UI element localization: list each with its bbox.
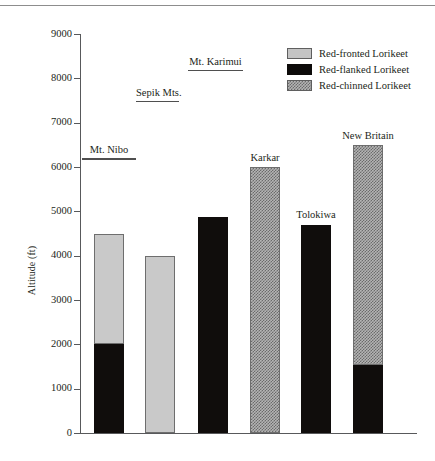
chart-plot-area: Altitude (ft) 9000 8000 7000 6000 5000 4… [0,0,435,461]
bar-karkar[interactable] [250,167,280,433]
y-tick-label-2000: 2000 [36,339,72,350]
legend-swatch-icon-red-flanked [287,64,312,75]
annotation-rule-mt-karimui [188,70,243,72]
bar-segment-red-flanked-lorikeet [353,365,383,433]
bar-label-tolokiwa: Tolokiwa [286,209,346,221]
bar-segment-red-chinned-lorikeet [353,145,383,365]
bar-mt-karimui[interactable] [198,217,228,433]
y-tick-label-6000: 6000 [36,162,72,173]
bar-label-new-britain: New Britain [333,130,403,142]
bar-new-britain[interactable] [353,145,383,433]
x-axis-line [80,433,417,434]
y-axis-title: Altitude (ft) [26,226,37,316]
legend-label-red-flanked: Red-flanked Lorikeet [319,63,409,76]
legend-label-red-chinned: Red-chinned Lorikeet [319,79,411,92]
y-axis-line [80,34,81,433]
y-tick-3000 [74,300,80,301]
bar-segment-red-flanked-lorikeet [198,217,228,433]
y-tick-5000 [74,211,80,212]
annotation-rule-sepik-mts [136,101,179,103]
annotation-label-sepik-mts: Sepik Mts. [136,87,179,99]
y-tick-label-3000: 3000 [36,295,72,306]
bar-segment-red-flanked-lorikeet [94,344,124,433]
bar-tolokiwa[interactable] [301,225,331,433]
y-tick-4000 [74,256,80,257]
legend-swatch-icon-red-fronted [287,48,312,59]
y-tick-label-1000: 1000 [36,383,72,394]
y-tick-label-8000: 8000 [36,73,72,84]
bar-segment-red-chinned-lorikeet [250,167,280,433]
legend-swatch-icon-red-chinned [287,80,312,91]
y-tick-label-4000: 4000 [36,250,72,261]
y-tick-9000 [74,34,80,35]
annotation-label-mt-karimui: Mt. Karimui [188,56,243,68]
y-tick-label-9000: 9000 [36,29,72,40]
y-tick-2000 [74,344,80,345]
bar-segment-red-flanked-lorikeet [301,225,331,433]
y-tick-7000 [74,123,80,124]
bar-sepik-mts[interactable] [145,256,175,433]
y-tick-label-7000: 7000 [36,117,72,128]
y-tick-0 [74,433,80,434]
annotation-label-mt-nibo: Mt. Nibo [82,144,136,156]
legend-label-red-fronted: Red-fronted Lorikeet [319,47,408,60]
y-tick-6000 [74,167,80,168]
y-tick-label-5000: 5000 [36,206,72,217]
y-tick-label-0: 0 [36,428,72,439]
bar-label-karkar: Karkar [233,152,297,164]
bar-segment-red-fronted-lorikeet [145,256,175,433]
bar-segment-red-fronted-lorikeet [94,234,124,345]
y-tick-1000 [74,389,80,390]
bar-mt-nibo[interactable] [94,234,124,434]
annotation-rule-mt-nibo [82,158,136,160]
y-tick-8000 [74,78,80,79]
